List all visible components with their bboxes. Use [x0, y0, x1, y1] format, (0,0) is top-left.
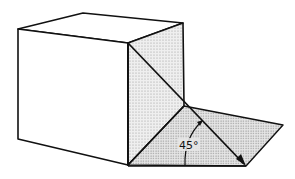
cube-front-face	[18, 29, 128, 165]
cube-diagram: 45°	[0, 0, 295, 179]
angle-label: 45°	[179, 139, 199, 152]
